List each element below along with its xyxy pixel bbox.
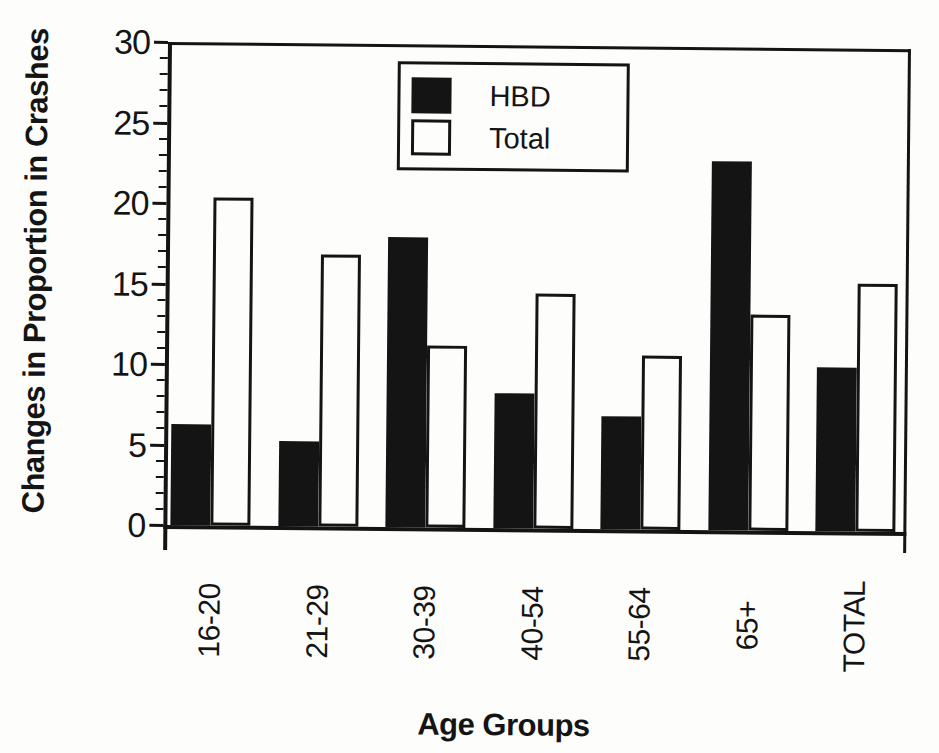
y-tick-label-0: 0 (75, 504, 145, 545)
y-minor-tick-1 (156, 508, 164, 510)
y-minor-tick-26 (159, 105, 167, 107)
bar-group-21-29 (278, 43, 363, 527)
y-tick-label-15: 15 (77, 263, 147, 304)
legend: HBD Total (397, 61, 630, 172)
y-tick-label-5: 5 (76, 424, 146, 465)
y-minor-tick-14 (158, 299, 166, 301)
bar-hbd-21-29 (278, 441, 319, 526)
hbd-swatch-icon (411, 77, 451, 113)
bar-group-total (815, 48, 900, 532)
y-minor-tick-16 (158, 266, 166, 268)
scanned-figure-surface: Changes in Proportion in Crashes 0510152… (0, 0, 939, 753)
y-tick-label-30: 30 (80, 21, 150, 62)
x-axis-title: Age Groups (417, 706, 590, 744)
bar-total-21-29 (318, 254, 361, 526)
y-major-tick-0 (149, 524, 163, 527)
x-axis-category-labels: 16-2021-2930-3940-5455-6465+TOTAL (0, 0, 939, 7)
y-major-tick-30 (154, 41, 168, 44)
legend-item-hbd: HBD (411, 74, 626, 118)
category-label-21-29: 21-29 (300, 584, 335, 659)
bar-hbd-65+ (708, 161, 752, 530)
y-minor-tick-28 (160, 73, 168, 75)
y-minor-tick-2 (156, 492, 164, 494)
bar-hbd-16-20 (170, 424, 211, 525)
bar-hbd-30-39 (385, 237, 428, 527)
y-major-tick-25 (153, 121, 167, 124)
category-label-total: TOTAL (837, 581, 872, 673)
total-swatch-icon (411, 119, 451, 155)
y-minor-tick-22 (159, 170, 167, 172)
y-axis-ticks: 051015202530 (0, 0, 939, 7)
y-minor-tick-3 (156, 476, 164, 478)
bar-hbd-55-64 (600, 416, 641, 529)
y-minor-tick-4 (156, 459, 164, 461)
category-label-40-54: 40-54 (515, 586, 550, 661)
bar-group-16-20 (170, 42, 255, 526)
y-minor-tick-6 (156, 427, 164, 429)
y-tick-label-10: 10 (77, 343, 147, 384)
y-minor-tick-19 (158, 218, 166, 220)
y-minor-tick-24 (159, 138, 167, 140)
bar-total-55-64 (640, 356, 682, 530)
y-major-tick-20 (152, 202, 166, 205)
y-minor-tick-7 (156, 411, 164, 413)
bar-total-65+ (748, 315, 790, 531)
category-label-16-20: 16-20 (192, 583, 227, 658)
legend-item-total: Total (411, 116, 626, 160)
y-minor-tick-9 (157, 379, 165, 381)
y-major-tick-10 (151, 363, 165, 366)
bar-total-16-20 (210, 197, 253, 525)
y-tick-label-20: 20 (78, 182, 148, 223)
y-minor-tick-13 (157, 315, 165, 317)
y-tick-label-25: 25 (79, 102, 149, 143)
crash-proportion-bar-chart: Changes in Proportion in Crashes 0510152… (0, 0, 939, 753)
category-label-30-39: 30-39 (407, 585, 442, 660)
bar-total-40-54 (533, 294, 575, 529)
y-minor-tick-17 (158, 250, 166, 252)
y-axis-title: Changes in Proportion in Crashes (15, 28, 56, 514)
bar-total-total (855, 284, 897, 532)
y-minor-tick-23 (159, 154, 167, 156)
category-label-55-64: 55-64 (622, 587, 657, 662)
y-minor-tick-11 (157, 347, 165, 349)
legend-label-hbd: HBD (489, 80, 551, 114)
y-minor-tick-27 (160, 89, 168, 91)
bar-hbd-40-54 (493, 393, 534, 528)
y-minor-tick-18 (158, 234, 166, 236)
legend-label-total: Total (489, 122, 551, 156)
category-label-65+: 65+ (730, 601, 764, 651)
bar-hbd-total (815, 367, 857, 531)
bar-total-30-39 (425, 346, 467, 528)
y-major-tick-15 (152, 282, 166, 285)
y-major-tick-5 (150, 443, 164, 446)
y-minor-tick-29 (160, 57, 168, 59)
bar-group-65+ (708, 47, 793, 531)
y-minor-tick-21 (159, 186, 167, 188)
y-minor-tick-12 (157, 331, 165, 333)
y-minor-tick-8 (157, 395, 165, 397)
